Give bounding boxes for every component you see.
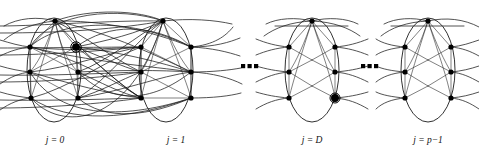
- graph-node[interactable]: [286, 95, 291, 100]
- graph-node[interactable]: [448, 69, 453, 74]
- graph-node[interactable]: [402, 69, 407, 74]
- graph-node[interactable]: [425, 18, 430, 23]
- graph-node[interactable]: [332, 69, 337, 74]
- graph-node[interactable]: [138, 95, 143, 100]
- graph-node[interactable]: [52, 18, 57, 23]
- cluster-label-jp1: j = p−1: [411, 135, 443, 145]
- graph-node[interactable]: [75, 69, 80, 74]
- graph-node[interactable]: [448, 44, 453, 49]
- graph-node-marked[interactable]: [73, 44, 80, 51]
- graph-node[interactable]: [332, 44, 337, 49]
- layered-graph-diagram: j = 0 j = 1 j = D j = p−1: [0, 0, 479, 158]
- graph-node[interactable]: [448, 95, 453, 100]
- cluster-label-j0: j = 0: [44, 135, 65, 145]
- figure-root: j = 0 j = 1 j = D j = p−1: [0, 0, 479, 158]
- graph-node-marked[interactable]: [332, 95, 339, 102]
- edge-layer-long-sweeps: [0, 12, 242, 117]
- graph-node[interactable]: [402, 95, 407, 100]
- graph-node[interactable]: [402, 44, 407, 49]
- graph-node[interactable]: [75, 95, 80, 100]
- graph-node[interactable]: [188, 69, 193, 74]
- cluster-label-j1: j = 1: [165, 135, 186, 145]
- graph-node[interactable]: [28, 95, 33, 100]
- graph-node[interactable]: [286, 44, 291, 49]
- graph-node[interactable]: [27, 69, 32, 74]
- cluster-label-jD: j = D: [300, 135, 323, 145]
- graph-node[interactable]: [27, 44, 32, 49]
- graph-node[interactable]: [160, 18, 165, 23]
- ellipsis-separator-2: [361, 64, 378, 68]
- graph-node[interactable]: [188, 95, 193, 100]
- graph-node[interactable]: [138, 44, 143, 49]
- ellipsis-separator-1: [241, 64, 258, 68]
- graph-node[interactable]: [188, 44, 193, 49]
- label-layer: j = 0 j = 1 j = D j = p−1: [44, 135, 443, 145]
- graph-node[interactable]: [138, 69, 143, 74]
- node-layer: [27, 18, 453, 103]
- graph-node[interactable]: [309, 18, 314, 23]
- graph-node[interactable]: [286, 69, 291, 74]
